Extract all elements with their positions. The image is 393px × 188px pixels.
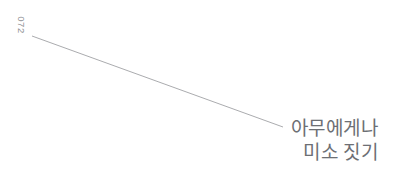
book-page: 072 아무에게나 미소 짓기 bbox=[0, 0, 393, 188]
page-number-label: 072 bbox=[16, 16, 26, 34]
leader-line bbox=[32, 36, 283, 127]
caption-block: 아무에게나 미소 짓기 bbox=[291, 117, 378, 165]
page-folio: 072 bbox=[4, 8, 38, 42]
caption-line-2: 미소 짓기 bbox=[291, 141, 378, 165]
caption-line-1: 아무에게나 bbox=[291, 117, 378, 141]
